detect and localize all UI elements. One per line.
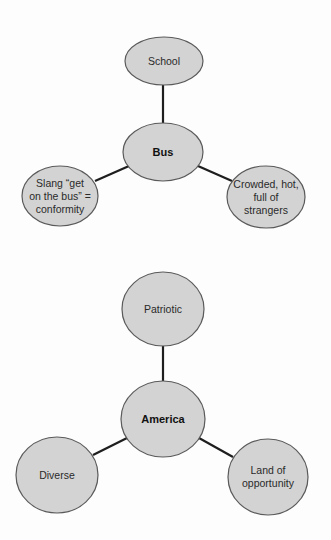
center-label: Bus [153, 146, 174, 158]
node-patriotic: Patriotic [122, 272, 204, 346]
node-label: Patriotic [144, 303, 182, 315]
center-label: America [141, 413, 185, 425]
node-label-line: full of [253, 191, 278, 203]
node-school: School [125, 37, 203, 85]
node-label-line: Land of [250, 464, 285, 476]
node-america-center: America [121, 381, 205, 457]
concept-maps: School Bus Slang “get on the bus” = conf… [0, 0, 331, 540]
bus-concept-map: School Bus Slang “get on the bus” = conf… [22, 37, 305, 228]
america-concept-map: Patriotic America Diverse Land of opport… [16, 272, 308, 515]
node-bus-center: Bus [123, 123, 203, 181]
node-label-line: on the bus” = [29, 190, 91, 202]
node-label-line: Slang “get [36, 177, 84, 189]
edge-bus-slang [95, 166, 129, 181]
edge-america-diverse [93, 438, 127, 455]
node-label: Diverse [39, 469, 75, 481]
node-label: School [148, 55, 180, 67]
node-label-line: conformity [36, 203, 85, 215]
edge-america-land [199, 438, 233, 457]
node-label-line: strangers [244, 204, 288, 216]
node-label-line: opportunity [242, 477, 295, 489]
node-land-of-opportunity: Land of opportunity [228, 439, 308, 515]
node-slang: Slang “get on the bus” = conformity [22, 166, 98, 226]
edge-bus-crowded [198, 166, 232, 181]
node-crowded: Crowded, hot, full of strangers [227, 166, 305, 228]
node-label-line: Crowded, hot, [233, 178, 298, 190]
node-diverse: Diverse [16, 437, 98, 513]
